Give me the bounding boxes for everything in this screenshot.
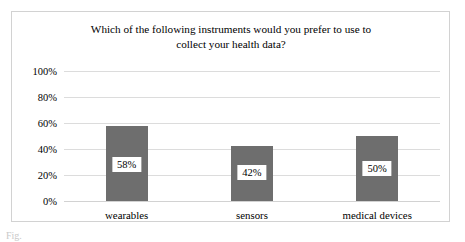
chart-title-line-2: collect your health data? bbox=[40, 37, 422, 52]
category-label-medical-devices: medical devices bbox=[343, 209, 412, 221]
bar-medical-devices[interactable]: 50% bbox=[356, 136, 398, 201]
ytick-label-100: 100% bbox=[33, 66, 58, 77]
plot-area: 100% 80% 60% 40% 20% 0% 58% wearables 42… bbox=[64, 71, 440, 201]
category-label-sensors: sensors bbox=[236, 209, 268, 221]
bar-value-sensors: 42% bbox=[237, 165, 266, 180]
chart-title: Which of the following instruments would… bbox=[40, 22, 422, 52]
figure-caption-clipped: Fig. bbox=[6, 230, 22, 242]
chart-title-line-1: Which of the following instruments would… bbox=[40, 22, 422, 37]
bar-value-medical-devices: 50% bbox=[363, 161, 392, 176]
ytick-label-40: 40% bbox=[38, 144, 57, 155]
bar-value-wearables: 58% bbox=[112, 157, 141, 172]
ytick-label-80: 80% bbox=[38, 92, 57, 103]
ytick-label-0: 0% bbox=[43, 196, 57, 207]
gridline-0-baseline: 0% bbox=[64, 201, 440, 202]
bar-slot-sensors: 42% sensors bbox=[189, 71, 314, 201]
bar-sensors[interactable]: 42% bbox=[231, 146, 273, 201]
category-label-wearables: wearables bbox=[105, 209, 148, 221]
ytick-label-20: 20% bbox=[38, 170, 57, 181]
ytick-label-60: 60% bbox=[38, 118, 57, 129]
bar-slot-wearables: 58% wearables bbox=[64, 71, 189, 201]
chart-frame: Which of the following instruments would… bbox=[11, 11, 450, 222]
bar-wearables[interactable]: 58% bbox=[106, 126, 148, 201]
bar-slot-medical-devices: 50% medical devices bbox=[315, 71, 440, 201]
